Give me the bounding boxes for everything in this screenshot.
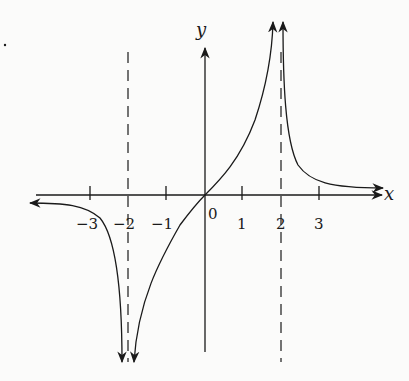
stray-dot <box>4 44 6 46</box>
tick-label-one: 1 <box>237 215 247 233</box>
tick-label-zero: 0 <box>208 205 218 223</box>
tick-label-neg2: −2 <box>113 215 135 233</box>
tick-label-neg3: −3 <box>76 215 98 233</box>
curve-right-branch <box>283 22 383 188</box>
y-axis-label: y <box>195 19 207 40</box>
x-axis-label: x <box>384 183 394 204</box>
curve-middle-branch <box>134 22 273 362</box>
function-graph: −3 −2 −1 0 1 2 3 x y <box>0 0 409 381</box>
tick-label-three: 3 <box>314 215 324 233</box>
tick-label-neg1: −1 <box>151 215 173 233</box>
tick-label-two: 2 <box>276 215 286 233</box>
